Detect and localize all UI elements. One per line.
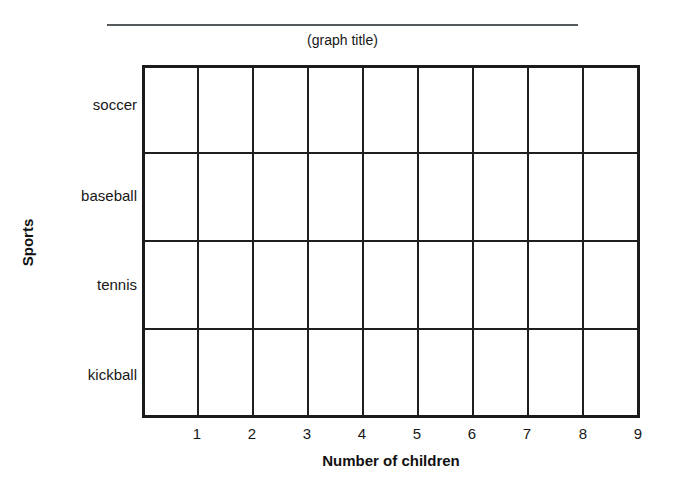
x-tick-8: 8 bbox=[568, 425, 598, 443]
y-category-label-tennis: tennis bbox=[0, 276, 137, 294]
gridline-col-7 bbox=[527, 68, 529, 415]
x-tick-5: 5 bbox=[402, 425, 432, 443]
vertical-gridlines bbox=[145, 68, 637, 415]
x-tick-3: 3 bbox=[292, 425, 322, 443]
worksheet-bar-graph-template: (graph title) Sports soccer baseball ten… bbox=[0, 0, 676, 491]
x-tick-4: 4 bbox=[347, 425, 377, 443]
x-axis-title: Number of children bbox=[142, 452, 640, 469]
x-tick-9: 9 bbox=[623, 425, 653, 443]
plot-area[interactable] bbox=[142, 65, 640, 418]
gridline-col-1 bbox=[197, 68, 199, 415]
x-tick-2: 2 bbox=[237, 425, 267, 443]
x-tick-6: 6 bbox=[457, 425, 487, 443]
gridline-col-6 bbox=[472, 68, 474, 415]
y-category-label-soccer: soccer bbox=[0, 96, 137, 114]
x-tick-7: 7 bbox=[512, 425, 542, 443]
gridline-col-3 bbox=[307, 68, 309, 415]
graph-title-caption: (graph title) bbox=[107, 31, 578, 49]
y-category-label-baseball: baseball bbox=[0, 187, 137, 205]
x-tick-1: 1 bbox=[182, 425, 212, 443]
gridline-col-2 bbox=[252, 68, 254, 415]
gridline-col-5 bbox=[417, 68, 419, 415]
y-category-label-kickball: kickball bbox=[0, 366, 137, 384]
gridline-col-4 bbox=[362, 68, 364, 415]
graph-title-write-in-line[interactable] bbox=[107, 24, 578, 26]
gridline-col-8 bbox=[582, 68, 584, 415]
